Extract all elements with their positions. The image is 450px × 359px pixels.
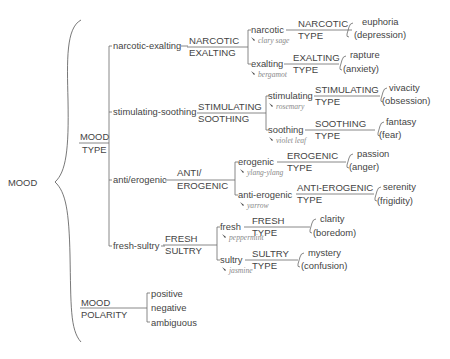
scent-violet-leaf: violet leaf	[276, 136, 307, 145]
group-type-bottom: SULTRY	[165, 245, 203, 256]
item-type-bottom: TYPE	[252, 227, 277, 238]
group-type-bottom: EROGENIC	[177, 180, 228, 191]
outcome-positive: vivacity	[389, 82, 420, 93]
item-type-top: ANTI-EROGENIC	[297, 182, 373, 193]
outcome-positive: serenity	[383, 181, 416, 192]
scent-clary-sage: clary sage	[258, 36, 290, 45]
root-brace	[55, 20, 81, 342]
scent-jasmine: jasmine	[228, 266, 253, 275]
group-type-bottom: EXALTING	[189, 47, 236, 58]
polarity-positive: positive	[151, 288, 183, 299]
item-type-top: FRESH	[252, 215, 285, 226]
mood-polarity-label-bottom: POLARITY	[81, 309, 128, 320]
item-label-stimulating: stimulating	[268, 90, 313, 101]
arrow-icon	[222, 267, 226, 271]
item-type-top: SOOTHING	[315, 118, 366, 129]
item-type-bottom: TYPE	[287, 162, 312, 173]
group-label-narcotic-exalting: narcotic-exalting	[113, 40, 181, 51]
mood-type-label-top: MOOD	[80, 131, 109, 142]
item-label-narcotic: narcotic	[251, 24, 284, 35]
outcome-positive: passion	[357, 148, 389, 159]
item-type-top: SULTRY	[252, 248, 290, 259]
item-label-exalting: exalting	[251, 58, 283, 69]
item-type-top: EROGENIC	[287, 150, 338, 161]
group-label-anti-erogenic: anti/erogenic	[113, 174, 167, 185]
group-label-stimulating-soothing: stimulating-soothing	[113, 106, 196, 117]
outcome-positive: fantasy	[386, 116, 417, 127]
group-type-top: ANTI/	[177, 167, 202, 178]
outcome-negative: (confusion)	[301, 260, 347, 271]
item-type-top: EXALTING	[293, 52, 340, 63]
arrow-icon	[240, 169, 244, 173]
arrow-icon	[222, 234, 226, 238]
scent-rosemary: rosemary	[276, 102, 305, 111]
arrow-icon	[251, 71, 255, 75]
outcome-positive: rapture	[350, 49, 380, 60]
item-type-bottom: TYPE	[315, 130, 340, 141]
mood-taxonomy-diagram: MOOD MOOD TYPE narcotic-exalting NARCOTI…	[0, 0, 450, 359]
item-type-bottom: TYPE	[293, 64, 318, 75]
item-type-bottom: TYPE	[315, 96, 340, 107]
mood-polarity-label-top: MOOD	[81, 297, 110, 308]
group-type-top: FRESH	[165, 233, 198, 244]
group-label-fresh-sultry: fresh-sultry	[113, 240, 160, 251]
item-label-soothing: soothing	[268, 124, 303, 135]
group-type-top: STIMULATING	[198, 101, 262, 112]
item-type-bottom: TYPE	[252, 260, 277, 271]
group-type-bottom: SOOTHING	[198, 113, 249, 124]
outcome-positive: clarity	[320, 213, 345, 224]
scent-yarrow: yarrow	[246, 201, 270, 210]
outcome-negative: (anger)	[349, 161, 379, 172]
outcome-negative: (obsession)	[382, 95, 430, 106]
item-type-top: STIMULATING	[315, 84, 379, 95]
scent-ylang-ylang: ylang-ylang	[246, 168, 283, 177]
polarity-negative: negative	[151, 302, 186, 313]
scent-bergamot: bergamot	[258, 70, 288, 79]
outcome-positive: euphoria	[362, 16, 399, 27]
outcome-negative: (depression)	[354, 29, 406, 40]
arrow-icon	[269, 137, 273, 141]
outcome-negative: (anxiety)	[343, 63, 379, 74]
item-label-anti-erogenic: anti-erogenic	[238, 189, 293, 200]
arrow-icon	[240, 202, 244, 206]
root-label: MOOD	[8, 177, 37, 188]
item-label-fresh: fresh	[220, 221, 241, 232]
item-label-erogenic: erogenic	[238, 156, 274, 167]
item-type-bottom: TYPE	[298, 30, 323, 41]
mood-type-label-bottom: TYPE	[82, 144, 107, 155]
group-type-top: NARCOTIC	[189, 35, 239, 46]
arrow-icon	[269, 103, 273, 107]
item-label-sultry: sultry	[220, 254, 243, 265]
polarity-ambiguous: ambiguous	[151, 317, 197, 328]
outcome-negative: (frigidity)	[377, 195, 413, 206]
arrow-icon	[251, 37, 255, 41]
outcome-negative: (fear)	[379, 129, 401, 140]
outcome-positive: mystery	[308, 247, 341, 258]
outcome-negative: (boredom)	[313, 227, 356, 238]
item-type-bottom: TYPE	[297, 194, 322, 205]
item-type-top: NARCOTIC	[298, 18, 348, 29]
